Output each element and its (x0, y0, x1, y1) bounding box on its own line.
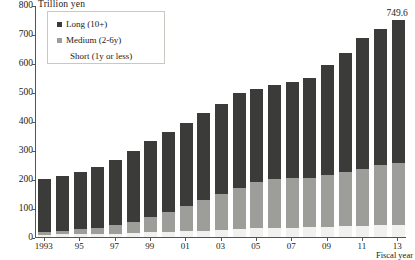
bar (56, 176, 69, 237)
bar-segment (180, 123, 193, 207)
x-axis-tick-label: 01 (181, 241, 190, 251)
bar-segment (56, 234, 69, 237)
bar (109, 160, 122, 237)
bar-segment (303, 227, 316, 237)
bar-segment (250, 228, 263, 237)
bar-segment (303, 178, 316, 228)
bar-segment (109, 160, 122, 226)
bar (392, 20, 405, 237)
bar (303, 78, 316, 237)
legend-item: Long (10+) (48, 16, 164, 32)
bar-segment (162, 232, 175, 237)
y-axis-tick-label: 0 (0, 233, 33, 243)
bar-chart: Trillion yen 0100200300400500600700800 1… (0, 0, 415, 260)
x-axis-tick-mark (44, 238, 45, 241)
bar-segment (162, 132, 175, 212)
x-axis-tick-label: 11 (357, 241, 366, 251)
chart-legend: Long (10+)Medium (2-6y)Short (1y or less… (47, 11, 165, 64)
bar-segment (250, 89, 263, 182)
legend-swatch-icon (57, 22, 62, 27)
bar (215, 104, 228, 237)
x-axis-tick-mark (221, 238, 222, 241)
bar-segment (74, 234, 87, 237)
legend-item: Medium (2-6y) (48, 32, 164, 48)
bar-segment (56, 176, 69, 231)
x-axis-tick-label: 1993 (35, 241, 53, 251)
bar-segment (127, 222, 140, 233)
bar-segment (374, 29, 387, 166)
x-axis-tick-mark (79, 238, 80, 241)
bar-segment (144, 217, 157, 232)
x-axis-tick-label: 05 (251, 241, 260, 251)
bar-segment (392, 225, 405, 237)
legend-item-label: Long (10+) (66, 19, 107, 29)
y-axis-tick-label: 300 (0, 146, 33, 156)
y-axis-tick-label: 700 (0, 30, 33, 40)
bar-segment (215, 104, 228, 194)
bar-segment (339, 53, 352, 172)
y-axis-tick-label: 500 (0, 88, 33, 98)
y-axis-tick-label: 400 (0, 117, 33, 127)
bar-segment (197, 231, 210, 237)
bar (162, 132, 175, 237)
x-axis-tick-label: 09 (322, 241, 331, 251)
x-axis-tick-label: 99 (145, 241, 154, 251)
bar-segment (215, 194, 228, 230)
legend-item-label: Medium (2-6y) (66, 35, 121, 45)
bar-segment (233, 188, 246, 229)
bar (374, 29, 387, 237)
peak-value-annotation: 749.6 (386, 8, 407, 18)
x-axis-tick-mark (185, 238, 186, 241)
x-axis-tick-mark (397, 238, 398, 241)
bar-segment (215, 230, 228, 237)
bar-segment (339, 226, 352, 237)
bar-segment (374, 165, 387, 225)
bar-segment (286, 228, 299, 237)
bar-segment (109, 234, 122, 237)
bar-segment (38, 179, 51, 232)
bar (180, 123, 193, 237)
x-axis-tick-label: 07 (287, 241, 296, 251)
bar-segment (144, 232, 157, 237)
bar-segment (127, 151, 140, 223)
bar-segment (127, 233, 140, 237)
bar-segment (91, 167, 104, 228)
bar (74, 172, 87, 237)
x-axis-tick-mark (291, 238, 292, 241)
x-axis-title: Fiscal year (376, 250, 413, 260)
x-axis-tick-mark (115, 238, 116, 241)
y-axis-tick-label: 200 (0, 175, 33, 185)
bar-segment (74, 172, 87, 230)
x-axis-tick-mark (256, 238, 257, 241)
bar (286, 82, 299, 237)
bar-segment (268, 179, 281, 228)
bar (339, 53, 352, 237)
bar (233, 93, 246, 237)
x-axis-tick-label: 03 (216, 241, 225, 251)
bar-segment (180, 231, 193, 237)
bar-segment (250, 182, 263, 228)
y-axis-ticks: 0100200300400500600700800 (0, 0, 35, 260)
bar-segment (91, 234, 104, 237)
bar-segment (286, 82, 299, 178)
bar-segment (286, 178, 299, 227)
bar-segment (197, 113, 210, 200)
bar (268, 85, 281, 237)
bar-segment (162, 212, 175, 232)
bar (321, 65, 334, 237)
bar-segment (356, 169, 369, 226)
x-axis-tick-mark (150, 238, 151, 241)
bar (356, 38, 369, 237)
bar-segment (268, 85, 281, 179)
bar-segment (180, 206, 193, 231)
bar (127, 151, 140, 237)
bar (91, 167, 104, 237)
x-axis-tick-mark (362, 238, 363, 241)
bar (144, 141, 157, 237)
bar (38, 179, 51, 237)
bar-segment (374, 225, 387, 237)
bar-segment (303, 78, 316, 177)
x-axis-tick-label: 95 (75, 241, 84, 251)
bar-segment (392, 20, 405, 163)
bar-segment (268, 228, 281, 237)
